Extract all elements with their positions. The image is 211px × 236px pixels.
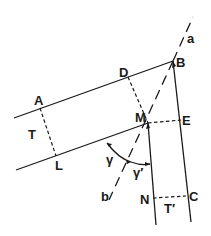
label-b: b — [101, 189, 109, 204]
label-T: T — [28, 127, 36, 142]
label-T-prime: T′ — [164, 201, 175, 216]
label-M: M — [135, 110, 146, 125]
diagram-svg: a B D A T M E L γ γ′ b N C T′ — [0, 0, 211, 236]
gamma-prime-arrowhead — [145, 162, 150, 166]
segment-NC — [153, 196, 186, 198]
segment-ME — [148, 120, 181, 123]
label-C: C — [189, 189, 199, 204]
geometry-diagram: a B D A T M E L γ γ′ b N C T′ — [0, 0, 211, 236]
segment-AL — [40, 108, 56, 156]
label-a: a — [187, 31, 195, 46]
upper-strip-top-line — [14, 61, 173, 118]
label-E: E — [182, 113, 191, 128]
label-gamma-prime: γ′ — [133, 165, 143, 180]
right-strip-inner-line — [148, 123, 156, 225]
label-B: B — [176, 55, 185, 70]
label-A: A — [34, 93, 44, 108]
label-D: D — [119, 65, 128, 80]
label-gamma: γ — [106, 152, 114, 167]
label-L: L — [55, 158, 63, 173]
label-N: N — [140, 192, 149, 207]
